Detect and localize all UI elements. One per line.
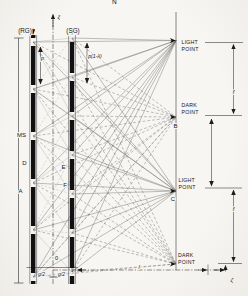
origin-label: 0 <box>55 255 58 261</box>
gap-left-label: g/2 <box>38 271 45 277</box>
pitch-p-label: p <box>40 55 44 61</box>
light-ray <box>72 38 176 41</box>
dark-ray <box>33 89 176 264</box>
rg-bar <box>31 46 35 85</box>
f-lower-label: f <box>233 206 236 212</box>
cropped-header-char: N <box>112 0 117 5</box>
f-upper-label: f <box>233 89 236 95</box>
mesh-ray <box>33 38 72 42</box>
dark-ray <box>72 117 176 272</box>
converging-rays <box>33 38 176 277</box>
sg-bar <box>70 237 74 268</box>
convergence-points <box>170 38 176 266</box>
gap-right-label: g/2 <box>58 271 65 277</box>
light-ray <box>33 41 176 43</box>
light-ray <box>72 191 176 272</box>
light-point-1-line2: POINT <box>182 46 200 52</box>
mesh-ray <box>33 155 72 230</box>
sg-bar <box>70 159 74 190</box>
rg-bar <box>31 35 35 38</box>
dark-ray <box>33 42 176 117</box>
dark-point-b-line2: POINT <box>182 109 200 115</box>
point-b-marker: B <box>173 123 177 129</box>
sg-bar <box>70 81 74 112</box>
dark-ray <box>33 264 176 277</box>
zeta-axis-label: ζ <box>231 277 235 284</box>
sg-bar <box>70 42 74 73</box>
dark-ray <box>33 136 176 264</box>
light-ray <box>72 116 176 191</box>
light-ray <box>33 41 176 90</box>
dark-ray <box>72 38 176 117</box>
mesh-ray <box>33 155 72 183</box>
slit-f-label: F <box>63 182 67 188</box>
dark-ray <box>33 117 176 136</box>
rg-grating-label: (RG) <box>18 27 32 35</box>
optics-moire-diagram: N (RG) (SG) ξ ζ p p(1-λ) MS D A E F 0 g/… <box>0 0 248 296</box>
dark-ray <box>33 117 176 230</box>
mesh-ray <box>33 89 72 155</box>
axes-and-dimensions <box>14 12 243 284</box>
diffraction-mesh <box>33 38 72 277</box>
light-ray <box>33 136 176 191</box>
dark-ray <box>33 42 176 264</box>
dark-ray <box>72 194 176 264</box>
dark-point-b-line1: DARK <box>182 102 198 108</box>
light-ray <box>72 77 176 191</box>
light-point-c-line1: LIGHT <box>179 177 196 183</box>
xi-axis-label: ξ <box>58 14 61 21</box>
light-point-1-line1: LIGHT <box>182 39 199 45</box>
rg-bar <box>31 187 35 226</box>
rg-bar <box>31 93 35 132</box>
light-ray <box>72 41 176 78</box>
mesh-ray <box>33 230 72 272</box>
pitch-sg-label: p(1-λ) <box>87 53 102 59</box>
l-dimension-label: l <box>138 264 140 270</box>
mesh-ray <box>33 136 72 155</box>
dark-ray <box>72 77 176 117</box>
slit-d-label: D <box>22 160 27 166</box>
light-ray <box>33 183 176 191</box>
light-ray <box>33 41 176 184</box>
rg-bar <box>31 140 35 179</box>
slit-a-label: A <box>18 188 22 194</box>
light-ray <box>72 191 176 194</box>
dark-ray <box>72 117 176 155</box>
rg-bar <box>31 281 35 284</box>
dark-ray <box>72 38 176 264</box>
dark-ray <box>33 183 176 264</box>
light-point-c-line2: POINT <box>179 184 197 190</box>
sg-bar <box>70 120 74 151</box>
dark-point-2-line2: POINT <box>178 259 196 265</box>
rg-bar <box>31 234 35 273</box>
sg-bar <box>70 276 74 284</box>
slit-e-label: E <box>61 164 65 170</box>
mesh-ray <box>33 38 72 89</box>
light-ray <box>72 155 176 191</box>
figure-svg: N (RG) (SG) ξ ζ p p(1-λ) MS D A E F 0 g/… <box>0 0 248 296</box>
ms-label: MS <box>17 132 26 138</box>
light-ray <box>33 41 176 278</box>
light-ray <box>72 191 176 233</box>
mesh-ray <box>33 77 72 136</box>
sg-grating-label: (SG) <box>66 27 79 35</box>
mesh-ray <box>33 42 72 116</box>
labels: N (RG) (SG) ξ ζ p p(1-λ) MS D A E F 0 g/… <box>17 0 236 284</box>
light-ray <box>33 41 176 231</box>
sg-bar <box>70 198 74 229</box>
dark-ray <box>72 233 176 264</box>
point-c-marker: C <box>171 196 176 202</box>
light-ray <box>33 191 176 277</box>
dark-point-2-line1: DARK <box>178 252 194 258</box>
dark-ray <box>72 264 176 272</box>
